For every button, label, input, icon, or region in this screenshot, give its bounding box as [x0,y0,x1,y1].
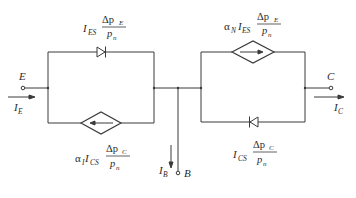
emitter-terminal [21,86,25,90]
svg-text:CS: CS [238,154,247,163]
svg-text:n: n [116,164,120,172]
collector-terminal [329,86,333,90]
base-current-arrow-icon [169,145,173,168]
emitter-diode-icon [97,47,106,58]
emitter-source-label: α I I CS Δp C p n [75,143,130,172]
base-terminal [176,171,180,175]
svg-text:N: N [230,26,237,35]
collector-diode-icon [249,117,258,128]
junction-dot [200,87,202,89]
svg-text:CS: CS [90,158,99,167]
ebers-moll-circuit: E C B I E I C I B I ES Δp E p n α N I ES… [0,0,356,198]
svg-text:Δp: Δp [102,14,114,25]
emitter-current-source-icon [81,112,121,134]
emitter-current-arrow-icon [8,95,35,99]
base-label: B [184,167,191,179]
svg-text:Δp: Δp [257,11,269,22]
left-loop-bottom-wire-right [121,88,154,123]
svg-text:n: n [113,34,117,42]
svg-text:ES: ES [241,26,251,35]
svg-text:p: p [261,25,267,36]
svg-text:Δp: Δp [253,139,265,150]
left-loop-top-wire [48,52,97,88]
right-loop-top-wire-right [274,52,305,88]
svg-text:E: E [273,16,279,24]
svg-text:E: E [118,19,124,27]
left-loop-bottom-wire [48,88,81,123]
collector-label: C [327,70,335,82]
collector-current-arrow-icon [314,95,344,99]
svg-text:B: B [163,170,168,179]
svg-text:p: p [109,158,115,169]
emitter-current-label: I E [13,101,23,116]
base-current-label: I B [158,164,168,179]
svg-text:Δp: Δp [106,143,118,154]
svg-text:C: C [338,107,344,116]
svg-text:n: n [263,160,267,168]
emitter-diode-label: I ES Δp E p n [82,14,126,42]
svg-text:C: C [269,144,274,152]
collector-current-source-icon [232,41,274,63]
svg-text:α: α [75,152,81,164]
svg-text:α: α [224,20,230,32]
right-loop-bottom-wire [201,88,249,122]
junction-dot [47,87,49,89]
collector-current-label: I C [333,101,344,116]
collector-source-label: α N I ES Δp E p n [224,11,281,39]
svg-text:p: p [256,154,262,165]
svg-text:n: n [268,31,272,39]
junction-dot [304,87,306,89]
left-loop-top-wire-right [106,52,154,88]
emitter-label: E [18,70,26,82]
svg-text:ES: ES [87,28,97,37]
svg-text:p: p [106,28,112,39]
junction-dot [153,87,155,89]
right-loop-top-wire [201,52,232,88]
right-loop-bottom-wire-right [258,88,305,122]
junction-dot [177,87,179,89]
svg-text:E: E [17,107,23,116]
svg-text:C: C [122,148,127,156]
collector-diode-label: I CS Δp C p n [232,139,277,168]
